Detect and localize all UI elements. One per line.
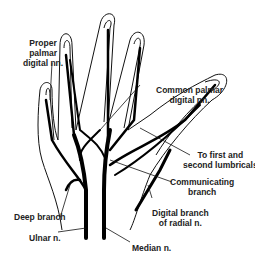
- label-median-n: Median n.: [132, 243, 171, 253]
- hand-nerve-diagram: Proper palmar digital nn. Common palmar …: [0, 0, 255, 266]
- label-proper-palmar-digital-nn: Proper palmar digital nn.: [23, 38, 63, 68]
- label-digital-branch-radial-n: Digital branch of radial n.: [152, 208, 209, 228]
- label-to-first-second-lumbricals: To first and second lumbricals: [183, 150, 255, 170]
- label-common-palmar-digital-nn: Common palmar digital nn.: [156, 85, 223, 105]
- label-communicating-branch: Communicating branch: [170, 177, 234, 197]
- label-ulnar-n: Ulnar n.: [29, 233, 61, 243]
- label-deep-branch: Deep branch: [14, 212, 66, 222]
